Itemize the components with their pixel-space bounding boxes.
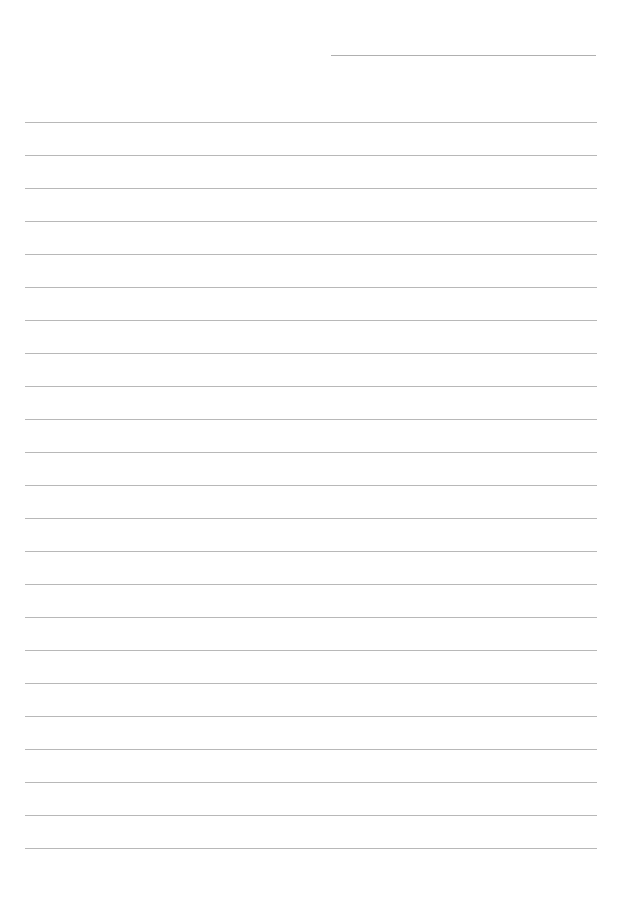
ruled-line	[25, 848, 597, 849]
ruled-line	[25, 749, 597, 750]
ruled-line	[25, 353, 597, 354]
ruled-line	[25, 155, 597, 156]
ruled-line	[25, 221, 597, 222]
ruled-line	[25, 452, 597, 453]
ruled-line	[25, 122, 597, 123]
lined-paper-page	[0, 0, 623, 904]
ruled-line	[25, 551, 597, 552]
date-line	[331, 55, 596, 56]
ruled-line	[25, 584, 597, 585]
ruled-line	[25, 287, 597, 288]
ruled-line	[25, 650, 597, 651]
ruled-line	[25, 683, 597, 684]
ruled-line	[25, 815, 597, 816]
ruled-line	[25, 254, 597, 255]
ruled-line	[25, 320, 597, 321]
ruled-line	[25, 485, 597, 486]
ruled-line	[25, 782, 597, 783]
ruled-line	[25, 617, 597, 618]
ruled-line	[25, 518, 597, 519]
ruled-line	[25, 386, 597, 387]
ruled-line	[25, 188, 597, 189]
ruled-line	[25, 419, 597, 420]
ruled-line	[25, 716, 597, 717]
